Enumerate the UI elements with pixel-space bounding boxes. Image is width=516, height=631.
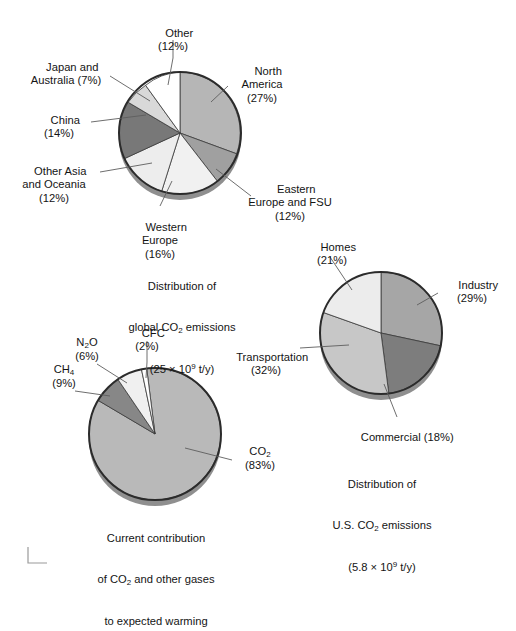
- label-transportation: Transportation(32%): [222, 338, 310, 391]
- caption-us-line3-pre: (5.8 × 10: [348, 561, 392, 573]
- caption-us-line3-sup: 9: [393, 560, 397, 569]
- label-co2: CO2(83%): [232, 445, 288, 472]
- label-homes-text: Homes(21%): [317, 241, 356, 266]
- caption-us-line2-pre: U.S. CO: [333, 519, 375, 531]
- label-co2-pre: CO: [249, 445, 266, 457]
- caption-us-line3-post: t/y): [397, 561, 416, 573]
- label-cfc: CFC(2%): [110, 314, 184, 367]
- label-japan-australia: Japan andAustralia (7%): [12, 48, 120, 101]
- pie-us-co2: [300, 257, 442, 417]
- label-north-america-text: NorthAmerica(27%): [241, 65, 282, 103]
- label-transportation-text: Transportation(32%): [236, 351, 308, 376]
- label-ch4-sub: 4: [70, 368, 74, 377]
- caption-global-line3-sup: 9: [191, 362, 195, 371]
- label-north-america: NorthAmerica(27%): [220, 52, 304, 118]
- caption-global-line3-post: t/y): [196, 363, 215, 375]
- label-china-text: China(14%): [44, 114, 80, 139]
- label-ch4-post: (9%): [52, 377, 76, 389]
- caption-warming-gases: Current contribution of CO2 and other ga…: [72, 505, 240, 631]
- label-industry-text: Industry(29%): [457, 279, 498, 304]
- label-n2o: N2O(6%): [58, 336, 116, 363]
- caption-warming-line3: to expected warming: [72, 615, 240, 629]
- label-n2o-mid: O: [89, 336, 98, 348]
- caption-warming-line2-sub: 2: [127, 578, 131, 587]
- label-co2-sub: 2: [266, 450, 270, 459]
- label-other-asia-oceania: Other Asiaand Oceania(12%): [6, 152, 102, 218]
- label-ch4: CH4(9%): [36, 363, 92, 390]
- label-n2o-sub: 2: [84, 341, 88, 350]
- caption-global-line1: Distribution of: [104, 280, 260, 294]
- caption-warming-line2: of CO2 and other gases: [72, 573, 240, 588]
- label-other: Other(12%): [118, 14, 228, 67]
- caption-us-line2-post: emissions: [379, 519, 432, 531]
- label-n2o-post: (6%): [75, 350, 99, 362]
- label-co2-post: (83%): [245, 459, 275, 471]
- caption-warming-line1: Current contribution: [72, 532, 240, 546]
- label-industry: Industry(29%): [436, 266, 508, 319]
- corner-registration-mark: [28, 547, 47, 563]
- caption-warming-line2-pre: of CO: [97, 573, 126, 585]
- label-cfc-text: CFC(2%): [135, 327, 165, 352]
- caption-warming-line2-post: and other gases: [131, 573, 214, 585]
- label-commercial-text: Commercial (18%): [361, 431, 454, 443]
- label-eastern-europe-fsu: EasternEurope and FSU(12%): [228, 170, 352, 236]
- caption-global-line2-post: emissions: [183, 321, 236, 333]
- caption-us-co2: Distribution of U.S. CO2 emissions (5.8 …: [304, 451, 460, 603]
- label-other-asia-oceania-text: Other Asiaand Oceania(12%): [22, 165, 86, 203]
- label-homes: Homes(21%): [296, 228, 368, 281]
- caption-us-line1: Distribution of: [304, 478, 460, 492]
- label-eastern-europe-fsu-text: EasternEurope and FSU(12%): [248, 183, 332, 221]
- label-china: China(14%): [22, 101, 96, 154]
- label-japan-australia-text: Japan andAustralia (7%): [31, 61, 102, 86]
- label-other-text: Other(12%): [158, 27, 193, 52]
- label-ch4-pre: CH: [54, 363, 70, 375]
- caption-us-line2-sub: 2: [374, 524, 378, 533]
- caption-us-line2: U.S. CO2 emissions: [304, 519, 460, 534]
- caption-us-line3: (5.8 × 109 t/y): [304, 561, 460, 576]
